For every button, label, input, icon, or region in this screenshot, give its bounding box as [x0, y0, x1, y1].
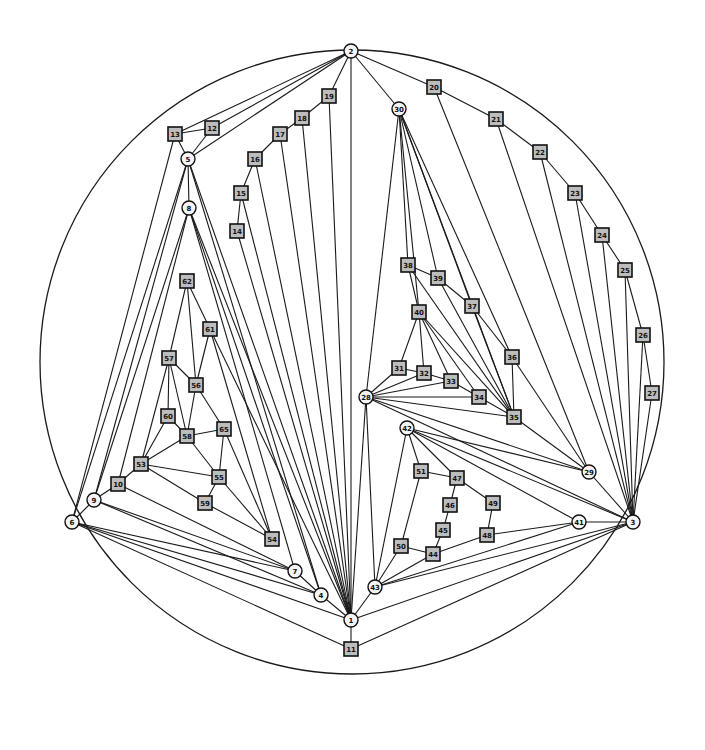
- node-3: 3: [626, 515, 640, 529]
- node-44: 44: [426, 547, 440, 561]
- node-46: 46: [443, 498, 457, 512]
- outer-boundary-circle: [40, 50, 664, 674]
- node-label: 53: [136, 461, 146, 469]
- node-53: 53: [134, 457, 148, 471]
- node-label: 42: [402, 425, 412, 433]
- node-label: 49: [488, 500, 498, 508]
- node-6: 6: [65, 515, 79, 529]
- node-label: 47: [452, 475, 462, 483]
- node-label: 26: [638, 332, 648, 340]
- node-label: 51: [416, 468, 426, 476]
- node-label: 39: [433, 275, 443, 283]
- node-39: 39: [431, 271, 445, 285]
- node-label: 24: [597, 232, 607, 240]
- edge-43-3: [375, 522, 633, 587]
- node-32: 32: [417, 366, 431, 380]
- edge-18-1: [302, 118, 351, 620]
- edge-65-54: [224, 429, 272, 539]
- node-label: 50: [396, 543, 406, 551]
- node-label: 61: [205, 326, 215, 334]
- node-4: 4: [314, 588, 328, 602]
- node-36: 36: [505, 350, 519, 364]
- node-42: 42: [400, 421, 414, 435]
- node-20: 20: [427, 80, 441, 94]
- edge-layer: [72, 51, 652, 649]
- node-label: 57: [164, 355, 174, 363]
- node-label: 5: [186, 156, 191, 164]
- edge-59-54: [205, 503, 272, 539]
- node-7: 7: [288, 564, 302, 578]
- node-23: 23: [568, 186, 582, 200]
- node-1: 1: [344, 613, 358, 627]
- node-label: 14: [232, 228, 242, 236]
- edge-30-28: [366, 109, 399, 397]
- node-label: 37: [467, 303, 477, 311]
- node-label: 65: [219, 426, 229, 434]
- edge-5-6: [72, 159, 188, 522]
- edge-26-27: [643, 335, 652, 393]
- node-18: 18: [295, 111, 309, 125]
- edge-57-60: [168, 358, 169, 416]
- node-60: 60: [161, 409, 175, 423]
- node-45: 45: [436, 523, 450, 537]
- node-37: 37: [465, 299, 479, 313]
- node-2: 2: [344, 44, 358, 58]
- node-label: 11: [346, 646, 356, 654]
- node-19: 19: [322, 89, 336, 103]
- node-label: 18: [297, 115, 307, 123]
- node-33: 33: [444, 374, 458, 388]
- node-24: 24: [595, 228, 609, 242]
- edge-40-31: [399, 312, 419, 368]
- outer-circle: [40, 50, 664, 674]
- edge-6-1: [72, 522, 351, 620]
- node-label: 1: [349, 617, 354, 625]
- node-16: 16: [248, 152, 262, 166]
- graph-canvas: 1234567891011121314151617181920212223242…: [0, 0, 705, 750]
- node-label: 30: [394, 106, 404, 114]
- edge-57-58: [169, 358, 187, 436]
- edge-42-43: [375, 428, 407, 587]
- edge-8-7: [189, 208, 295, 571]
- node-15: 15: [234, 186, 248, 200]
- node-27: 27: [645, 386, 659, 400]
- edge-2-5: [188, 51, 351, 159]
- node-21: 21: [489, 112, 503, 126]
- node-57: 57: [162, 351, 176, 365]
- node-29: 29: [582, 465, 596, 479]
- node-label: 43: [370, 584, 380, 592]
- edge-28-43: [366, 397, 375, 587]
- node-38: 38: [401, 258, 415, 272]
- node-label: 2: [349, 48, 354, 56]
- node-13: 13: [168, 127, 182, 141]
- node-label: 9: [92, 497, 97, 505]
- edge-20-21: [434, 87, 496, 119]
- node-9: 9: [87, 493, 101, 507]
- node-31: 31: [392, 361, 406, 375]
- node-30: 30: [392, 102, 406, 116]
- edge-26-3: [633, 335, 643, 522]
- node-label: 12: [207, 125, 217, 133]
- edge-36-29: [512, 357, 589, 472]
- node-5: 5: [181, 152, 195, 166]
- edge-28-29: [366, 397, 589, 472]
- node-55: 55: [212, 470, 226, 484]
- edge-62-57: [169, 281, 187, 358]
- node-label: 6: [70, 519, 75, 527]
- edge-28-32: [366, 373, 424, 397]
- node-8: 8: [182, 201, 196, 215]
- edge-48-44: [433, 535, 487, 554]
- node-62: 62: [180, 274, 194, 288]
- edge-2-20: [351, 51, 434, 87]
- node-28: 28: [359, 390, 373, 404]
- node-label: 32: [419, 370, 429, 378]
- node-54: 54: [265, 532, 279, 546]
- node-label: 28: [361, 394, 371, 402]
- node-label: 54: [267, 536, 277, 544]
- node-12: 12: [205, 121, 219, 135]
- node-58: 58: [180, 429, 194, 443]
- node-11: 11: [344, 642, 358, 656]
- node-label: 25: [620, 267, 630, 275]
- node-label: 59: [200, 500, 210, 508]
- edge-38-35: [408, 265, 514, 417]
- edge-48-41: [487, 522, 579, 535]
